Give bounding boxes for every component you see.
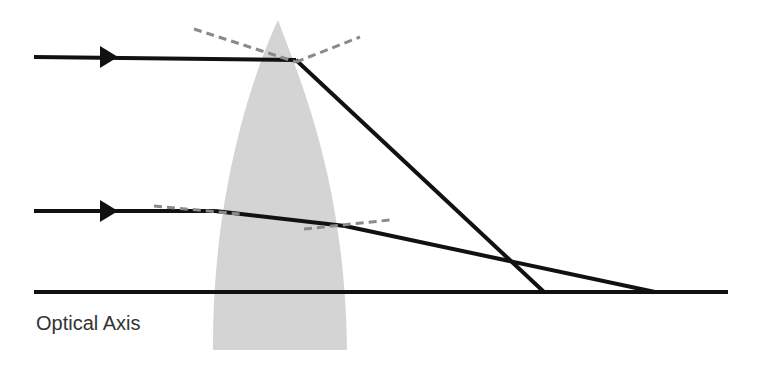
lens-shape <box>213 20 347 350</box>
optical-axis-label: Optical Axis <box>36 312 140 335</box>
refracted-ray-bottom <box>345 226 655 292</box>
arrow-icon-top <box>100 46 118 68</box>
arrow-icon-bottom <box>100 200 118 222</box>
incoming-ray-top <box>34 57 296 60</box>
lens-diagram: Optical Axis <box>0 0 757 368</box>
